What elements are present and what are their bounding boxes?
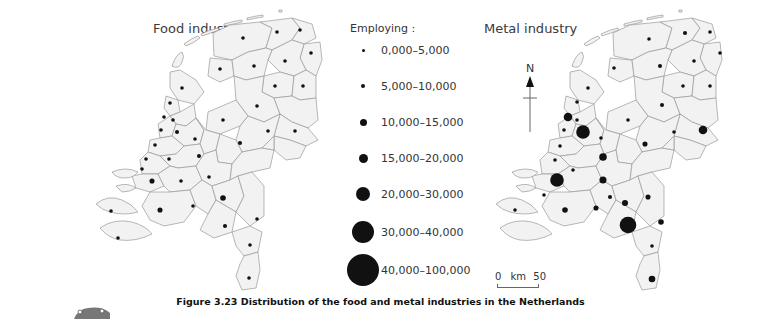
legend-symbol — [345, 104, 381, 140]
employment-symbol — [699, 126, 708, 135]
employment-symbol — [309, 51, 313, 55]
employment-symbol — [558, 144, 562, 148]
employment-symbol — [248, 243, 252, 247]
food-industry-map — [0, 0, 340, 300]
employment-symbol — [642, 141, 647, 146]
employment-symbol — [553, 158, 557, 162]
scale-start: 0 — [495, 271, 501, 282]
scale-line — [497, 284, 539, 288]
scale-bar: 0 km 50 — [495, 271, 546, 282]
employment-symbol — [159, 128, 163, 132]
employment-symbol — [672, 130, 676, 134]
publisher-logo-icon — [72, 306, 112, 319]
employment-symbol — [692, 59, 696, 63]
employment-symbol — [221, 118, 225, 122]
employment-symbol — [562, 207, 568, 213]
employment-symbol — [647, 37, 651, 41]
employment-symbol — [238, 141, 242, 145]
employment-symbol — [180, 86, 184, 90]
employment-symbol — [658, 219, 664, 225]
employment-symbol — [283, 59, 287, 63]
employment-symbol — [179, 179, 183, 183]
employment-symbol — [266, 129, 270, 133]
employment-symbol — [708, 84, 712, 88]
employment-symbol — [293, 129, 297, 133]
employment-symbol — [273, 84, 277, 88]
employment-symbol — [649, 276, 656, 283]
employment-symbol — [542, 193, 546, 197]
employment-symbol — [218, 67, 222, 71]
employment-symbol — [116, 236, 120, 240]
employment-symbol — [153, 143, 157, 147]
employment-symbol — [608, 195, 612, 199]
employment-symbol — [626, 118, 630, 122]
employment-symbol — [599, 176, 606, 183]
employment-symbol — [708, 30, 712, 34]
employment-symbol — [241, 36, 245, 40]
employment-symbol — [550, 173, 564, 187]
employment-symbol — [575, 100, 579, 104]
legend-symbol — [345, 32, 381, 68]
employment-symbol — [586, 86, 590, 90]
employment-symbol — [599, 136, 603, 140]
employment-symbol — [168, 101, 172, 105]
legend-symbol — [345, 68, 381, 104]
employment-symbol — [255, 104, 259, 108]
metal-industry-map — [400, 0, 740, 300]
employment-symbol — [718, 51, 722, 55]
map-land — [96, 10, 322, 290]
legend-symbol — [345, 140, 381, 176]
employment-symbol — [275, 30, 279, 34]
employment-symbol — [175, 130, 179, 134]
employment-symbol — [658, 64, 662, 68]
map-land — [496, 10, 722, 290]
employment-symbol — [571, 168, 575, 172]
scale-unit: km — [511, 271, 527, 282]
scale-end: 50 — [533, 271, 546, 282]
employment-symbol — [564, 113, 573, 122]
legend-symbol — [345, 176, 381, 212]
north-arrow-icon: N — [518, 60, 542, 132]
employment-symbol — [247, 276, 251, 280]
employment-symbol — [167, 157, 171, 161]
employment-symbol — [622, 200, 628, 206]
north-label: N — [526, 62, 534, 75]
employment-symbol — [191, 204, 195, 208]
employment-symbol — [252, 64, 256, 68]
employment-symbol — [149, 178, 154, 183]
employment-symbol — [683, 31, 687, 35]
figure-caption: Figure 3.23 Distribution of the food and… — [0, 296, 761, 307]
employment-symbol — [599, 153, 607, 161]
employment-symbol — [650, 244, 654, 248]
employment-symbol — [660, 103, 664, 107]
employment-symbol — [157, 207, 162, 212]
employment-symbol — [681, 84, 685, 88]
employment-symbol — [171, 118, 175, 122]
employment-symbol — [197, 154, 201, 158]
employment-symbol — [620, 217, 637, 234]
employment-symbol — [193, 137, 197, 141]
employment-symbol — [576, 125, 590, 139]
legend-symbol — [345, 252, 381, 288]
employment-symbol — [255, 217, 259, 221]
employment-symbol — [223, 224, 227, 228]
employment-symbol — [298, 28, 302, 32]
employment-symbol — [513, 208, 517, 212]
employment-symbol — [144, 157, 148, 161]
employment-symbol — [575, 118, 579, 122]
employment-symbol — [162, 115, 166, 119]
employment-symbol — [207, 175, 211, 179]
employment-symbol — [562, 128, 566, 132]
employment-symbol — [301, 84, 305, 88]
employment-symbol — [220, 195, 226, 201]
employment-symbol — [109, 209, 113, 213]
legend-symbol — [345, 214, 381, 250]
employment-symbol — [645, 194, 650, 199]
employment-symbol — [593, 205, 598, 210]
employment-symbol — [140, 167, 144, 171]
employment-symbol — [612, 66, 616, 70]
